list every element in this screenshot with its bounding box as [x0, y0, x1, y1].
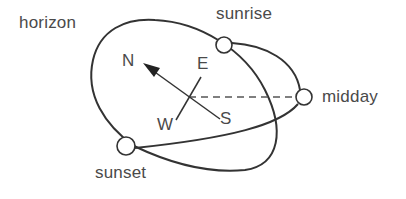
north-south-axis — [152, 70, 220, 119]
sun-path-sunrise-to-midday — [232, 43, 300, 90]
east-west-axis — [176, 77, 201, 120]
sun-sunrise-icon — [216, 37, 232, 53]
horizon-label: horizon — [19, 14, 76, 31]
sunset-label: sunset — [95, 164, 146, 181]
compass-north-label: N — [122, 52, 134, 69]
sun-midday-icon — [296, 89, 312, 105]
compass-south-label: S — [220, 110, 231, 127]
sunrise-label: sunrise — [216, 5, 272, 22]
compass-west-label: W — [157, 116, 173, 133]
sun-sunset-icon — [117, 137, 135, 155]
compass-east-label: E — [197, 55, 208, 72]
midday-label: midday — [322, 88, 378, 105]
north-arrow-head-icon — [143, 63, 160, 77]
